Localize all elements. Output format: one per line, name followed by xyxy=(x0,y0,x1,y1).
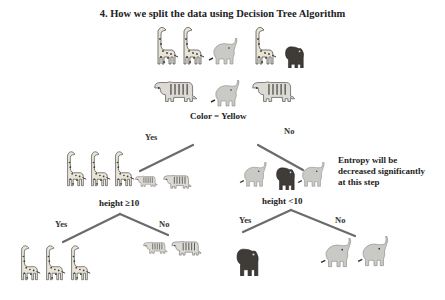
giraffe-icon xyxy=(62,148,88,190)
root-condition-label: Color = Yellow xyxy=(190,111,247,121)
edge-right-no xyxy=(291,210,355,236)
edge-label-left-no: No xyxy=(159,219,169,229)
elephant-icon xyxy=(297,162,329,190)
tiger-icon xyxy=(152,78,198,106)
edge-label-right-yes: Yes xyxy=(239,215,251,225)
elephant-icon xyxy=(208,38,242,68)
tiger-icon xyxy=(142,240,168,256)
entropy-note: Entropy will be decreased significantly … xyxy=(338,155,425,188)
tiger-icon xyxy=(168,240,204,257)
elephant-icon xyxy=(239,162,271,190)
edge-left-yes xyxy=(63,214,120,242)
giraffe-icon xyxy=(66,240,92,286)
giraffe-icon xyxy=(16,240,42,286)
giraffe-icon xyxy=(110,148,136,190)
bear-icon xyxy=(282,44,306,68)
edge-root-yes xyxy=(140,145,193,171)
giraffe-icon xyxy=(250,25,278,67)
edge-label-root-yes: Yes xyxy=(145,132,157,142)
tiger-icon xyxy=(160,174,194,190)
elephant-icon xyxy=(320,238,356,272)
left-condition-label: height ≥10 xyxy=(99,198,139,208)
tiger-icon xyxy=(250,78,296,106)
bear-icon xyxy=(274,164,296,190)
elephant-icon xyxy=(210,80,244,110)
right-condition-label: height <10 xyxy=(262,196,302,206)
edge-label-root-no: No xyxy=(284,126,294,136)
tiger-icon xyxy=(134,174,158,189)
edge-label-right-no: No xyxy=(335,215,345,225)
giraffe-icon xyxy=(178,25,206,67)
elephant-icon xyxy=(357,236,393,272)
giraffe-icon xyxy=(41,240,67,286)
edge-label-left-yes: Yes xyxy=(55,219,67,229)
note-line: Entropy will be xyxy=(338,155,425,166)
note-line: decreased significantly xyxy=(338,166,425,177)
giraffe-icon xyxy=(86,148,112,190)
giraffe-icon xyxy=(152,25,180,67)
note-line: at this step xyxy=(338,177,425,188)
bear-icon xyxy=(234,244,260,276)
